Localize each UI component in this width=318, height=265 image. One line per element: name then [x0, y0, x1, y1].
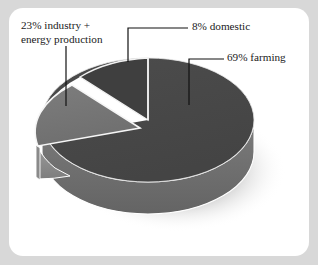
pie-side-wall-exploded-edge: [36, 145, 40, 180]
label-farming: 69% farming: [227, 51, 286, 65]
label-domestic: 8% domestic: [192, 20, 250, 34]
label-industry: 23% industry + energy production: [21, 19, 103, 46]
label-industry-line2: energy production: [21, 33, 103, 47]
label-industry-line1: 23% industry +: [21, 19, 90, 31]
pie-chart-figure: 23% industry + energy production 8% dome…: [0, 0, 318, 265]
leader-line-domestic: [128, 28, 188, 62]
